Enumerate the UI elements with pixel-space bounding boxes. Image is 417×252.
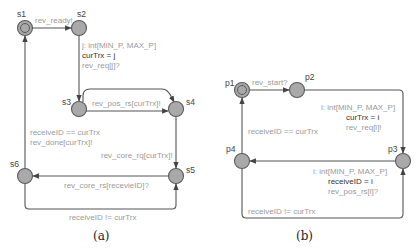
label-rev-req: rev_req[j]? [82, 61, 120, 70]
label-select-i-b: i: int[MIN_P, MAX_P] [313, 167, 387, 176]
label-rev-ready: rev_ready! [35, 16, 73, 25]
node-label-s4: s4 [186, 97, 195, 107]
node-s5[interactable] [169, 169, 184, 184]
diagram-b: p1 p2 p3 p4 rev_start? i: int[MIN_P, MAX… [225, 72, 411, 243]
label-rev-core-rq: rev_core_rq[curTrx]! [101, 151, 173, 160]
caption-a: (a) [93, 229, 110, 243]
diagram-a: s1 s2 s3 s4 s5 s6 rev_ready! j: int[MIN_… [10, 9, 195, 243]
node-label-p2: p2 [305, 72, 315, 82]
label-rev-req-b: rev_req[i]! [346, 123, 382, 132]
label-update-receiveid: receiveID = i [328, 177, 373, 186]
node-label-s5: s5 [186, 165, 195, 175]
label-select-j: j: int[MIN_P, MAX_P] [81, 41, 156, 50]
node-p2[interactable] [290, 83, 305, 98]
node-label-s1: s1 [17, 9, 26, 19]
label-guard-loop-a: receiveID != curTrx [69, 213, 137, 222]
caption-b: (b) [296, 229, 313, 243]
label-update-curtrx-b: curTrx = i [346, 113, 379, 122]
node-p4[interactable] [235, 154, 250, 169]
label-rev-done: rev_done[curTrx]! [30, 138, 92, 147]
label-update-curtrx: curTrx = j [82, 51, 115, 60]
label-guard-done: receiveID == curTrx [30, 128, 100, 137]
node-label-p4: p4 [226, 144, 236, 154]
label-rev-core-rs: rev_core_rs[recevieID]? [64, 181, 149, 190]
label-guard-loop-b: receiveID != curTrx [248, 207, 316, 216]
node-s2[interactable] [72, 21, 87, 36]
label-rev-pos-rs: rev_pos_rs[curTrx]! [92, 99, 161, 108]
node-s4[interactable] [169, 102, 184, 117]
label-rev-start: rev_start? [252, 78, 288, 87]
node-label-s6: s6 [10, 159, 19, 169]
node-s3[interactable] [72, 102, 87, 117]
label-select-i: i: int[MIN_P, MAX_P] [321, 103, 395, 112]
node-p3[interactable] [396, 154, 411, 169]
label-rev-pos-rs-b: rev_pos_rs[i]? [328, 187, 379, 196]
node-s1-initial[interactable] [18, 21, 33, 36]
label-guard-p4-p1: receiveID == curTrx [248, 127, 318, 136]
node-label-s3: s3 [62, 97, 71, 107]
node-p1-initial[interactable] [235, 83, 250, 98]
automata-figure: s1 s2 s3 s4 s5 s6 rev_ready! j: int[MIN_… [0, 0, 417, 252]
node-label-p3: p3 [388, 144, 398, 154]
node-label-p1: p1 [225, 78, 235, 88]
node-label-s2: s2 [77, 9, 86, 19]
node-s6[interactable] [18, 169, 33, 184]
